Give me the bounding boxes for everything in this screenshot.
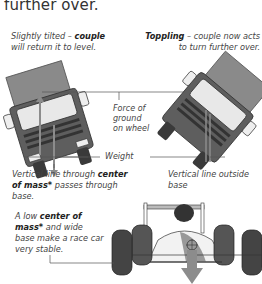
caption-text: Vertical line through — [12, 169, 98, 179]
race-car — [112, 203, 262, 284]
truck-right — [146, 42, 262, 179]
force-label-line: Force of — [113, 104, 149, 114]
weight-label: Weight — [103, 152, 135, 162]
caption-race-car: A low center of mass* and wide base make… — [15, 211, 105, 255]
caption-vertical-outside-base: Vertical line outside base — [168, 169, 262, 191]
truck-left — [0, 57, 106, 184]
caption-text: A low — [15, 211, 40, 221]
force-label: Force of ground on wheel — [113, 104, 149, 134]
force-label-line: on wheel — [113, 124, 149, 134]
force-label-line: ground — [113, 114, 149, 124]
caption-vertical-through-base: Vertical line through center of mass* pa… — [12, 169, 132, 202]
